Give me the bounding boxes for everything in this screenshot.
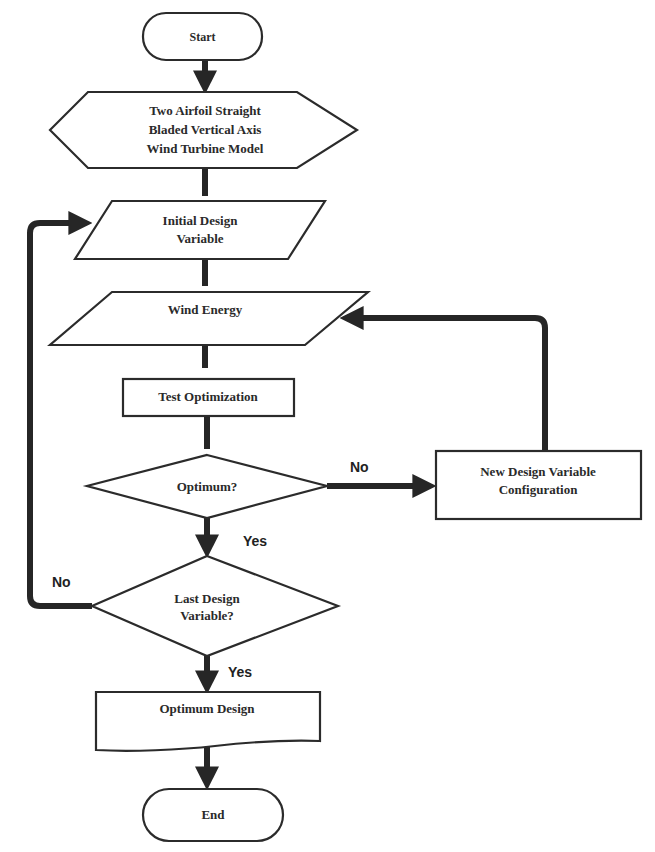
test-label: Test Optimization: [158, 389, 258, 404]
start-node: Start: [143, 13, 262, 60]
end-label: End: [201, 807, 225, 822]
arrow-newdesign-to-wind: [348, 318, 545, 451]
turbine-model-node: Two Airfoil Straight Bladed Vertical Axi…: [50, 92, 357, 168]
new-design-node: New Design Variable Configuration: [436, 451, 641, 519]
flowchart-canvas: Start Two Airfoil Straight Bladed Vertic…: [0, 0, 655, 852]
optimum-design-label: Optimum Design: [160, 701, 256, 716]
new-design-line-2: Configuration: [499, 482, 579, 497]
last-line-2: Variable?: [180, 608, 234, 623]
initial-line-2: Variable: [176, 231, 223, 246]
model-line-2: Bladed Vertical Axis: [149, 122, 262, 137]
optimum-yes-label: Yes: [243, 533, 267, 549]
last-design-decision-node: Last Design Variable?: [92, 556, 338, 656]
end-node: End: [143, 789, 283, 841]
wind-energy-node: Wind Energy: [50, 292, 368, 345]
new-design-line-1: New Design Variable: [480, 464, 596, 479]
test-optimization-node: Test Optimization: [123, 379, 294, 416]
optimum-no-label: No: [350, 459, 369, 475]
model-line-3: Wind Turbine Model: [147, 141, 264, 156]
last-no-label: No: [52, 574, 71, 590]
initial-design-node: Initial Design Variable: [75, 201, 325, 259]
flowchart-svg: Start Two Airfoil Straight Bladed Vertic…: [0, 0, 655, 852]
wind-label: Wind Energy: [168, 302, 243, 317]
arrow-last-no-loop: [30, 223, 92, 606]
model-line-1: Two Airfoil Straight: [149, 103, 261, 118]
initial-line-1: Initial Design: [163, 213, 239, 228]
last-yes-label: Yes: [228, 664, 252, 680]
last-line-1: Last Design: [174, 591, 240, 606]
optimum-design-node: Optimum Design: [96, 692, 320, 751]
start-label: Start: [190, 30, 216, 44]
optimum-label: Optimum?: [177, 479, 238, 494]
optimum-decision-node: Optimum?: [87, 455, 327, 518]
